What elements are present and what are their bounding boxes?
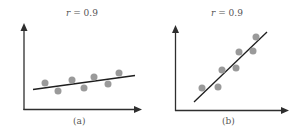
panel-b-caption: (b)	[222, 116, 235, 126]
data-point	[215, 84, 222, 91]
x-axis-arrow-icon	[281, 107, 289, 114]
data-point	[233, 65, 240, 72]
panel-b: r = 0.9 (b)	[0, 0, 305, 137]
title-value: = 0.9	[215, 8, 243, 18]
fit-line	[194, 32, 267, 102]
data-point	[253, 34, 260, 41]
scatter-plot-b	[0, 0, 305, 137]
y-axis-arrow-icon	[172, 25, 179, 33]
data-point	[250, 48, 257, 55]
data-point	[236, 49, 243, 56]
data-point	[199, 85, 206, 92]
data-point	[219, 67, 226, 74]
panel-b-title: r = 0.9	[211, 8, 243, 18]
